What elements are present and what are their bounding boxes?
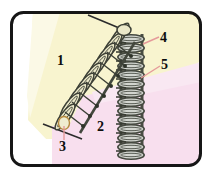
diagram-label-2: 2 xyxy=(97,120,104,134)
diagram-interior xyxy=(10,11,202,167)
diagram-label-1: 1 xyxy=(57,54,64,68)
diagram-canvas xyxy=(0,0,211,178)
diagram-label-4: 4 xyxy=(160,31,167,45)
diagram-label-3: 3 xyxy=(59,140,66,154)
diagonal-row-top-loop xyxy=(117,25,131,36)
diagram-label-5: 5 xyxy=(161,58,168,72)
